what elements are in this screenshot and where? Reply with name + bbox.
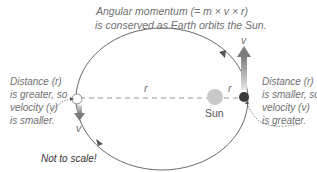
earth-near-icon xyxy=(239,92,249,102)
right-annotation-line-2: is smaller, so xyxy=(262,89,317,100)
right-annotation-line-3: velocity (v) xyxy=(262,102,310,113)
left-annotation-line-3: velocity (v) xyxy=(10,102,58,113)
sun-label: Sun xyxy=(205,107,224,119)
velocity-arrow-up-head xyxy=(237,46,251,57)
orbit-direction-arrow-top xyxy=(219,50,226,58)
r-label-near: r xyxy=(228,82,233,94)
title-line-1: Angular momentum (= m × v × r) xyxy=(95,5,248,17)
velocity-arrow-up-shaft xyxy=(241,56,247,90)
not-to-scale-note: Not to scale! xyxy=(41,153,97,164)
velocity-arrow-down-shaft xyxy=(77,105,82,114)
r-label-far: r xyxy=(144,82,149,94)
sun-icon xyxy=(207,89,223,105)
v-label-far: v xyxy=(76,122,82,134)
v-label-near: v xyxy=(241,34,247,46)
velocity-arrow-down-head xyxy=(74,113,85,121)
left-annotation-line-1: Distance (r) xyxy=(10,76,62,87)
right-annotation-line-1: Distance (r) xyxy=(262,76,314,87)
title-line-2: is conserved as Earth orbits the Sun. xyxy=(95,19,267,31)
right-annotation-line-4: is greater. xyxy=(262,115,306,126)
left-annotation-line-4: is smaller. xyxy=(10,115,55,126)
orbit-diagram: Angular momentum (= m × v × r) is conser… xyxy=(0,0,317,172)
left-annotation-line-2: is greater, so xyxy=(10,89,68,100)
